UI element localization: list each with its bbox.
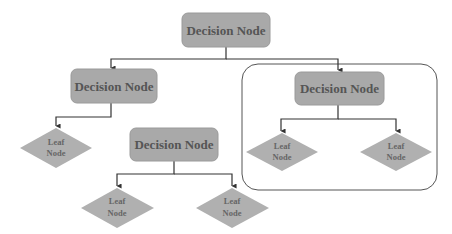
leaf-node-5-label-line1: Leaf	[388, 141, 405, 151]
leaf-node-3-label-line2: Node	[223, 208, 242, 218]
edge-middle-leaf2	[117, 161, 174, 186]
decision-node-root-label: Decision Node	[186, 23, 265, 38]
leaf-node-2: Leaf Node	[81, 188, 154, 228]
edges	[56, 47, 396, 186]
leaf-node-5: Leaf Node	[360, 133, 432, 171]
leaf-node-2-label-line1: Leaf	[109, 196, 126, 206]
leaf-node-4-label-line2: Node	[273, 152, 292, 162]
edge-root-left	[111, 47, 226, 68]
leaf-node-1-label-line1: Leaf	[48, 137, 65, 147]
decision-node-right-label: Decision Node	[300, 81, 379, 96]
leaf-node-4-label-line1: Leaf	[274, 141, 291, 151]
edge-right-leaf4	[281, 105, 338, 131]
decision-node-left: Decision Node	[71, 69, 157, 103]
leaf-node-3-label-line1: Leaf	[224, 196, 241, 206]
leaf-node-1-label-line2: Node	[47, 148, 66, 158]
leaf-node-4: Leaf Node	[246, 133, 318, 171]
edge-middle-leaf3	[174, 174, 232, 186]
leaf-node-2-label-line2: Node	[108, 208, 127, 218]
decision-node-left-label: Decision Node	[74, 79, 153, 94]
decision-node-middle-label: Decision Node	[134, 137, 213, 152]
decision-node-right: Decision Node	[295, 72, 384, 105]
edge-right-leaf5	[338, 119, 396, 131]
leaf-node-1: Leaf Node	[20, 128, 92, 168]
decision-tree-diagram: Decision Node Decision Node Decision Nod…	[0, 0, 452, 234]
edge-left-leaf1	[56, 103, 111, 126]
decision-node-middle: Decision Node	[130, 128, 218, 161]
leaf-node-3: Leaf Node	[196, 188, 269, 228]
leaf-node-5-label-line2: Node	[387, 152, 406, 162]
decision-node-root: Decision Node	[182, 13, 270, 47]
